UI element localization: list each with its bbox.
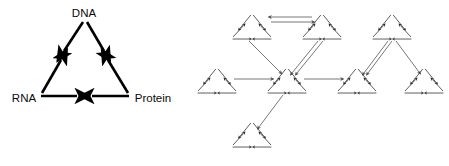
node-label-protein: Protein (135, 92, 171, 104)
node-label-rna: RNA (12, 92, 37, 104)
figure-canvas: DNA RNA Protein (0, 0, 449, 166)
node-label-dna: DNA (72, 7, 97, 19)
canvas-background (0, 0, 449, 166)
